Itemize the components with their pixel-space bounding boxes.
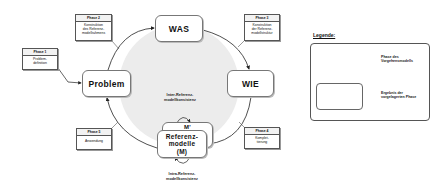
- intra-line2: modellkonsistenz: [157, 177, 207, 182]
- phase-2-line3: modellrahmens: [77, 31, 110, 35]
- phase-3-line3: modellstruktur: [246, 31, 278, 35]
- phase1-connector: [58, 68, 81, 83]
- node-ref-line3: (M): [177, 148, 188, 156]
- node-ref-line1: Referenz-: [166, 133, 198, 141]
- node-problem: Problem: [82, 70, 131, 97]
- phase-4-box: Phase 4 Komplet- tierung: [244, 127, 280, 149]
- legend-arrow-line2: Vorgehensmodells: [381, 59, 413, 63]
- phase-1-box: Phase 1 Problem- definition: [22, 48, 58, 70]
- phase-5-line1: Anwendung: [78, 139, 110, 143]
- phase-3-box: Phase 3 Konstruktion der Referenz- model…: [244, 14, 280, 41]
- phase2-connector: [112, 41, 119, 49]
- phase-3-head: Phase 3: [245, 15, 279, 22]
- phase3-connector: [238, 41, 244, 47]
- legend-arrow-text: Phase des Vorgehensmodells: [381, 55, 413, 64]
- legend-result-box-sample: [316, 83, 363, 110]
- inter-consistency-label: Inter-Referenz- modellkonsistenz: [155, 93, 205, 102]
- inter-line2: modellkonsistenz: [155, 98, 205, 103]
- legend-title: Legende:: [313, 32, 335, 38]
- phase-2-box: Phase 2 Konstruktion des Referenz- model…: [75, 14, 112, 41]
- phase-4-head: Phase 4: [245, 128, 279, 135]
- phase-1-head: Phase 1: [23, 49, 57, 56]
- legend-box-text: Ergebnis der vorgelagerten Phase: [381, 91, 416, 100]
- phase-1-line2: definition: [24, 61, 56, 65]
- phase-5-box: Phase 5 Anwendung: [76, 128, 112, 150]
- phase5-connector: [112, 122, 118, 128]
- node-problem-label: Problem: [88, 79, 124, 89]
- phase-4-line2: tierung: [246, 140, 278, 144]
- phase-5-head: Phase 5: [77, 129, 111, 136]
- node-referenzmodelle: Referenz- modelle (M): [157, 130, 207, 158]
- node-ref-line2: modelle: [169, 140, 196, 148]
- node-was-label: WAS: [169, 24, 189, 34]
- node-wie: WIE: [227, 70, 274, 97]
- node-wie-label: WIE: [242, 79, 259, 89]
- phase-2-head: Phase 2: [76, 15, 111, 22]
- node-was: WAS: [155, 15, 203, 42]
- intra-consistency-label: Intra-Referenz- modellkonsistenz: [157, 172, 207, 181]
- legend-box-line2: vorgelagerten Phase: [381, 95, 416, 99]
